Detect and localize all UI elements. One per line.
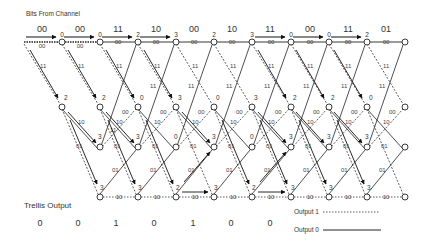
received-bit: 10 bbox=[151, 24, 161, 34]
svg-text:3: 3 bbox=[365, 133, 369, 140]
svg-text:3: 3 bbox=[136, 133, 140, 140]
received-bit: 11 bbox=[343, 24, 352, 34]
svg-text:2: 2 bbox=[212, 31, 216, 38]
svg-text:01: 01 bbox=[228, 143, 235, 149]
svg-text:11: 11 bbox=[230, 63, 237, 69]
svg-text:11: 11 bbox=[379, 83, 386, 89]
svg-text:00: 00 bbox=[153, 39, 160, 45]
svg-text:00: 00 bbox=[389, 109, 396, 115]
row3-metrics: 3 3 2 3 2 3 3 3 bbox=[100, 184, 371, 191]
row0-to-row1-edges bbox=[24, 44, 403, 104]
svg-text:01: 01 bbox=[343, 143, 350, 149]
svg-text:00: 00 bbox=[229, 39, 236, 45]
svg-text:01: 01 bbox=[264, 167, 271, 173]
svg-text:10: 10 bbox=[307, 194, 314, 200]
svg-text:3: 3 bbox=[174, 31, 178, 38]
svg-text:00: 00 bbox=[236, 109, 243, 115]
svg-text:00: 00 bbox=[39, 43, 46, 49]
svg-text:3: 3 bbox=[100, 184, 104, 191]
legend-output1-label: Output 1 bbox=[294, 208, 319, 216]
svg-text:11: 11 bbox=[226, 83, 233, 89]
svg-text:10: 10 bbox=[345, 194, 352, 200]
svg-text:3: 3 bbox=[291, 184, 295, 191]
svg-text:2: 2 bbox=[293, 94, 297, 101]
svg-text:11: 11 bbox=[345, 63, 352, 69]
svg-text:0: 0 bbox=[75, 218, 80, 228]
svg-text:01: 01 bbox=[152, 143, 159, 149]
svg-text:00: 00 bbox=[77, 43, 84, 49]
svg-text:2: 2 bbox=[252, 184, 256, 191]
svg-text:11: 11 bbox=[40, 63, 47, 69]
svg-text:10: 10 bbox=[268, 194, 275, 200]
svg-text:01: 01 bbox=[114, 143, 121, 149]
svg-text:11: 11 bbox=[264, 83, 271, 89]
svg-text:00: 00 bbox=[198, 109, 205, 115]
svg-text:3: 3 bbox=[254, 94, 258, 101]
received-bit: 00 bbox=[75, 24, 85, 34]
svg-text:00: 00 bbox=[122, 109, 129, 115]
svg-text:0: 0 bbox=[140, 94, 144, 101]
svg-text:10: 10 bbox=[154, 119, 161, 125]
received-bit: 00 bbox=[189, 24, 199, 34]
svg-text:2: 2 bbox=[136, 31, 140, 38]
svg-text:2: 2 bbox=[365, 31, 369, 38]
svg-text:0: 0 bbox=[98, 31, 102, 38]
svg-text:11: 11 bbox=[307, 63, 314, 69]
trellis-output-values: 0 0 1 0 1 0 0 bbox=[37, 218, 272, 228]
svg-text:01: 01 bbox=[303, 167, 310, 173]
svg-text:10: 10 bbox=[192, 194, 199, 200]
svg-text:0: 0 bbox=[60, 31, 64, 38]
svg-text:01: 01 bbox=[266, 143, 273, 149]
svg-text:0: 0 bbox=[369, 94, 373, 101]
received-bit: 01 bbox=[381, 24, 391, 34]
received-bit: 11 bbox=[113, 24, 122, 34]
svg-text:01: 01 bbox=[341, 167, 348, 173]
svg-text:10: 10 bbox=[192, 119, 199, 125]
row0-to-row1-labels: 11 11 11 11 11 11 11 11 11 11 bbox=[40, 63, 390, 69]
svg-text:10: 10 bbox=[383, 194, 390, 200]
svg-text:3: 3 bbox=[212, 133, 216, 140]
svg-text:0: 0 bbox=[267, 218, 272, 228]
svg-text:00: 00 bbox=[268, 39, 275, 45]
svg-text:11: 11 bbox=[154, 63, 161, 69]
svg-text:3: 3 bbox=[250, 31, 254, 38]
svg-text:00: 00 bbox=[115, 39, 122, 45]
trellis-output-label: Trellis Output bbox=[24, 201, 72, 210]
svg-text:3: 3 bbox=[178, 94, 182, 101]
svg-text:2: 2 bbox=[64, 94, 68, 101]
svg-text:0: 0 bbox=[37, 218, 42, 228]
svg-text:3: 3 bbox=[138, 184, 142, 191]
svg-text:10: 10 bbox=[78, 119, 85, 125]
svg-text:01: 01 bbox=[190, 143, 197, 149]
svg-text:3: 3 bbox=[367, 184, 371, 191]
svg-text:2: 2 bbox=[176, 184, 180, 191]
svg-text:00: 00 bbox=[160, 109, 167, 115]
row2-to-row1-labels: 00 00 00 00 00 00 00 00 bbox=[122, 109, 396, 115]
svg-text:2: 2 bbox=[331, 94, 335, 101]
svg-text:1: 1 bbox=[190, 218, 195, 228]
svg-text:00: 00 bbox=[383, 39, 390, 45]
svg-text:11: 11 bbox=[150, 83, 157, 89]
svg-text:3: 3 bbox=[214, 184, 218, 191]
svg-text:00: 00 bbox=[307, 39, 314, 45]
svg-text:11: 11 bbox=[116, 63, 123, 69]
svg-text:10: 10 bbox=[116, 194, 123, 200]
svg-text:3: 3 bbox=[289, 133, 293, 140]
legend-output0-label: Output 0 bbox=[294, 226, 319, 234]
svg-text:00: 00 bbox=[313, 109, 320, 115]
svg-text:3: 3 bbox=[98, 133, 102, 140]
svg-text:11: 11 bbox=[303, 83, 310, 89]
svg-text:01: 01 bbox=[305, 143, 312, 149]
svg-text:10: 10 bbox=[383, 119, 390, 125]
received-bit: 11 bbox=[265, 24, 274, 34]
svg-text:01: 01 bbox=[76, 143, 83, 149]
diagram-title: Bits From Channel bbox=[26, 10, 80, 17]
row1-to-row3-labels: 01 01 01 01 01 01 01 01 01 bbox=[76, 143, 388, 149]
svg-text:10: 10 bbox=[116, 119, 123, 125]
svg-text:0: 0 bbox=[250, 133, 254, 140]
svg-text:0: 0 bbox=[327, 31, 331, 38]
svg-text:01: 01 bbox=[112, 167, 119, 173]
svg-text:00: 00 bbox=[275, 109, 282, 115]
trellis-diagram: Bits From Channel 00 00 11 10 00 10 11 0… bbox=[0, 0, 431, 242]
svg-text:01: 01 bbox=[381, 143, 388, 149]
